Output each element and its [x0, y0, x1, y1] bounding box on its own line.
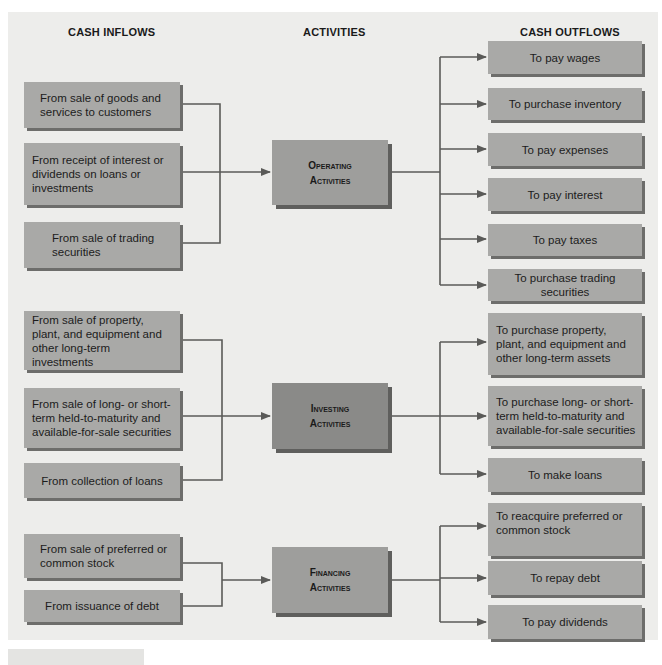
outflow-box: To purchase trading securities: [488, 269, 642, 301]
financing-activities-box: Financing Activities: [272, 547, 388, 613]
inflow-box: From sale of preferred or common stock: [24, 534, 180, 578]
outflow-box: To purchase inventory: [488, 88, 642, 120]
outflow-box: To make loans: [488, 458, 642, 492]
outflow-box: To repay debt: [488, 561, 642, 595]
inflow-box: From sale of goods and services to custo…: [24, 82, 180, 128]
outflow-box: To pay wages: [488, 41, 642, 74]
investing-activities-box: Investing Activities: [272, 383, 388, 449]
inflow-box: From sale of property, plant, and equipm…: [24, 311, 180, 370]
inflow-box: From receipt of interest or dividends on…: [24, 143, 180, 205]
header-cash-outflows: CASH OUTFLOWS: [520, 26, 620, 38]
outflow-box: To pay interest: [488, 178, 642, 211]
financing-title-line2: Activities: [310, 580, 351, 595]
inflow-box: From issuance of debt: [24, 590, 180, 622]
outflow-box: To purchase property, plant, and equipme…: [488, 313, 642, 375]
outflow-box: To pay dividends: [488, 605, 642, 639]
investing-title-line1: Investing: [310, 401, 351, 416]
operating-title-line1: Operating: [308, 158, 351, 173]
outflow-box: To pay expenses: [488, 133, 642, 166]
financing-title-line1: Financing: [310, 565, 351, 580]
header-cash-inflows: CASH INFLOWS: [68, 26, 155, 38]
outflow-box: To pay taxes: [488, 224, 642, 256]
investing-title-line2: Activities: [310, 416, 351, 431]
inflow-box: From collection of loans: [24, 463, 180, 498]
header-activities: ACTIVITIES: [303, 26, 366, 38]
inflow-box: From sale of trading securities: [24, 222, 180, 268]
operating-activities-box: Operating Activities: [272, 140, 388, 205]
operating-title-line2: Activities: [308, 173, 351, 188]
outflow-box: To reacquire preferred or common stock: [488, 503, 642, 556]
inflow-box: From sale of long- or short-term held-to…: [24, 388, 180, 448]
outflow-box: To purchase long- or short-term held-to-…: [488, 386, 642, 446]
